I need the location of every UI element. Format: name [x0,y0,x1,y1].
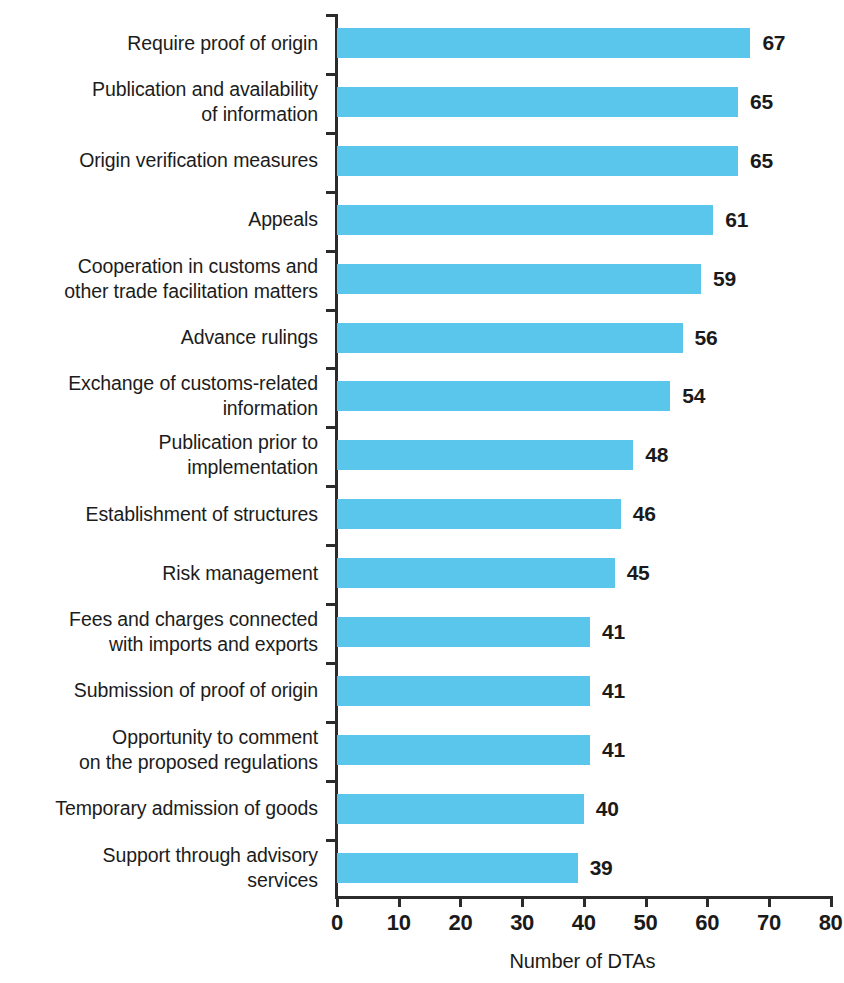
bar-value-label: 40 [596,794,619,824]
bar-value-label: 39 [590,853,613,883]
bar [337,853,578,883]
bar-row: Advance rulings56 [0,309,844,367]
bar-value-label: 65 [750,87,773,117]
bar-row: Support through advisory services39 [0,839,844,897]
bar-value-label: 54 [682,381,705,411]
bar-value-label: 67 [762,28,785,58]
x-axis-tick [521,896,524,907]
x-axis-title: Number of DTAs [335,950,830,973]
category-label: Submission of proof of origin [0,662,318,720]
bar-row: Submission of proof of origin41 [0,662,844,720]
bar-row: Opportunity to comment on the proposed r… [0,721,844,779]
category-label: Origin verification measures [0,132,318,190]
category-label: Support through advisory services [0,839,318,897]
bar [337,558,615,588]
bar [337,735,590,765]
bar-value-label: 48 [645,440,668,470]
y-axis-tick [326,132,336,135]
x-axis-tick [583,896,586,907]
x-axis-tick-label: 0 [307,910,367,936]
y-axis-tick [326,662,336,665]
bar-value-label: 45 [627,558,650,588]
category-label: Fees and charges connected with imports … [0,603,318,661]
y-axis-tick [326,485,336,488]
x-axis-tick-label: 60 [677,910,737,936]
y-axis-tick [326,309,336,312]
x-axis-tick-label: 70 [739,910,799,936]
x-axis-tick-label: 20 [430,910,490,936]
y-axis-tick [326,721,336,724]
y-axis-tick [326,544,336,547]
bar-row: Appeals61 [0,191,844,249]
y-axis-tick [326,367,336,370]
bar [337,146,738,176]
y-axis-tick [326,780,336,783]
y-axis-tick [326,250,336,253]
y-axis-tick [326,426,336,429]
bar-value-label: 41 [602,676,625,706]
plot-area: Require proof of origin67Publication and… [0,0,844,983]
bar-row: Exchange of customs-related information5… [0,367,844,425]
bar-row: Origin verification measures65 [0,132,844,190]
x-axis-tick [459,896,462,907]
bar [337,205,713,235]
bar-row: Risk management45 [0,544,844,602]
x-axis-tick-label: 40 [554,910,614,936]
category-label: Require proof of origin [0,14,318,72]
category-label: Cooperation in customs and other trade f… [0,250,318,308]
bar-row: Establishment of structures46 [0,485,844,543]
bar-value-label: 41 [602,735,625,765]
x-axis-tick [830,896,833,907]
x-axis-tick [706,896,709,907]
y-axis-tick [326,191,336,194]
bar-value-label: 59 [713,264,736,294]
y-axis-tick [326,839,336,842]
bar-value-label: 61 [725,205,748,235]
category-label: Publication prior to implementation [0,426,318,484]
bar [337,381,670,411]
bar-row: Publication prior to implementation48 [0,426,844,484]
x-axis-tick-label: 80 [801,910,844,936]
bar-value-label: 65 [750,146,773,176]
bar-value-label: 41 [602,617,625,647]
bar [337,264,701,294]
bar [337,794,584,824]
bar-row: Temporary admission of goods40 [0,780,844,838]
y-axis-tick [326,603,336,606]
bar-row: Cooperation in customs and other trade f… [0,250,844,308]
bar-value-label: 46 [633,499,656,529]
category-label: Risk management [0,544,318,602]
x-axis-tick [768,896,771,907]
x-axis-tick-label: 50 [616,910,676,936]
category-label: Appeals [0,191,318,249]
bar [337,440,633,470]
category-label: Exchange of customs-related information [0,367,318,425]
category-label: Publication and availability of informat… [0,73,318,131]
bar-value-label: 56 [695,323,718,353]
bar [337,87,738,117]
bar [337,676,590,706]
bar-chart: Require proof of origin67Publication and… [0,0,844,983]
bar [337,323,683,353]
bar-row: Fees and charges connected with imports … [0,603,844,661]
x-axis-tick-label: 10 [369,910,429,936]
y-axis-tick [326,73,336,76]
x-axis-tick [336,896,339,907]
category-label: Establishment of structures [0,485,318,543]
x-axis-tick [645,896,648,907]
bar [337,499,621,529]
bar-row: Require proof of origin67 [0,14,844,72]
bar [337,617,590,647]
bar-row: Publication and availability of informat… [0,73,844,131]
category-label: Opportunity to comment on the proposed r… [0,721,318,779]
category-label: Advance rulings [0,309,318,367]
category-label: Temporary admission of goods [0,780,318,838]
x-axis-tick-label: 30 [492,910,552,936]
bar [337,28,750,58]
y-axis-tick [326,14,336,17]
x-axis-tick [398,896,401,907]
